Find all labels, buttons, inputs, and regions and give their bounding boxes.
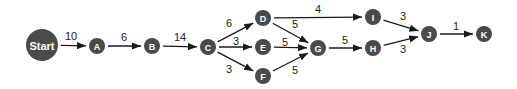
arrow-icon	[273, 53, 308, 71]
node-label: C	[205, 43, 212, 53]
edge-start-to-a	[61, 45, 86, 46]
node-b: B	[144, 38, 160, 54]
node-label: G	[314, 44, 321, 54]
edge-weight-label: 3	[400, 43, 406, 55]
node-h: H	[365, 40, 381, 56]
edge-weight-label: 4	[315, 3, 321, 15]
edge-weight-label: 1	[453, 20, 459, 32]
edge-weight-label: 3	[233, 35, 239, 47]
node-d: D	[255, 10, 271, 26]
edge-weight-label: 5	[342, 34, 348, 46]
edge-weight-label: 3	[226, 63, 232, 75]
node-label: E	[260, 43, 266, 53]
nodes-layer: StartABCDEFGIHJK	[26, 9, 492, 84]
edge-c-to-f	[218, 52, 254, 71]
node-label: H	[370, 44, 377, 54]
node-j: J	[421, 26, 437, 42]
node-label: D	[260, 14, 267, 24]
edge-weight-label: 10	[65, 30, 77, 42]
edge-e-to-g	[274, 47, 307, 48]
edge-weight-label: 6	[121, 31, 127, 43]
node-label: B	[149, 42, 156, 52]
node-e: E	[255, 39, 271, 55]
node-g: G	[310, 40, 326, 56]
edge-weight-label: 14	[174, 31, 186, 43]
node-label: K	[481, 30, 488, 40]
arrow-icon	[218, 52, 254, 71]
edge-weight-label: 3	[400, 10, 406, 22]
edge-f-to-g	[273, 53, 308, 71]
edge-b-to-c	[163, 46, 197, 47]
edge-weight-label: 5	[292, 18, 298, 30]
node-i: I	[365, 9, 381, 25]
arrow-icon	[61, 45, 86, 46]
node-f: F	[255, 68, 271, 84]
edge-d-to-g	[273, 23, 309, 42]
node-label: A	[94, 42, 101, 52]
node-label: I	[372, 13, 375, 23]
arrow-icon	[274, 47, 307, 48]
node-start: Start	[26, 29, 58, 61]
edge-weight-label: 5	[282, 36, 288, 48]
arrow-icon	[273, 23, 309, 42]
node-c: C	[200, 39, 216, 55]
node-a: A	[89, 38, 105, 54]
node-label: J	[426, 30, 431, 40]
node-label: F	[260, 72, 266, 82]
edge-d-to-i	[274, 17, 362, 18]
node-label: Start	[29, 40, 54, 52]
arrow-icon	[163, 46, 197, 47]
edge-weight-label: 5	[292, 64, 298, 76]
node-k: K	[476, 26, 492, 42]
activity-network-diagram: 1061463345555331 StartABCDEFGIHJK	[0, 0, 517, 89]
arrow-icon	[274, 17, 362, 18]
edge-weight-label: 6	[226, 17, 232, 29]
